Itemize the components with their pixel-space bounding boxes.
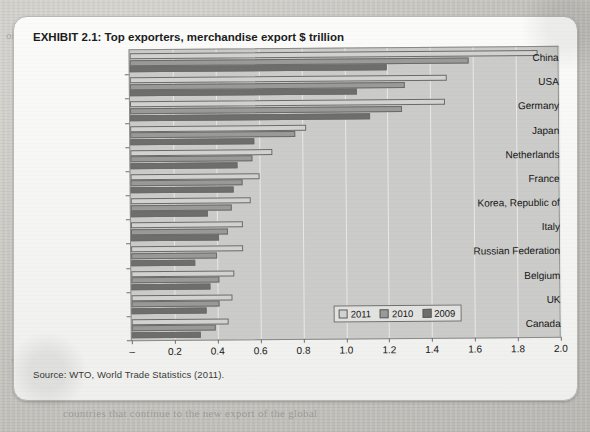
x-axis-tick-label: 1.8 <box>498 343 538 354</box>
y-axis-label: Belgium <box>464 269 560 281</box>
y-axis-tick <box>126 268 130 269</box>
y-axis-tick <box>125 74 129 75</box>
legend-item-2009[interactable]: 2009 <box>422 308 455 319</box>
bar-2009 <box>131 259 195 266</box>
x-axis-tick <box>389 338 390 342</box>
x-axis-tick-label: 0.2 <box>155 346 195 357</box>
y-axis-tick <box>126 195 130 196</box>
y-axis-label: China <box>463 52 559 64</box>
x-axis-tick-label: 0.8 <box>283 345 323 356</box>
bar-chart: ChinaUSAGermanyJapanNetherlandsFranceKor… <box>31 50 561 362</box>
exhibit-title-text: Top exporters, merchandise export $ tril… <box>105 31 344 43</box>
y-axis-tick <box>127 340 131 341</box>
x-axis-tick <box>303 339 304 343</box>
y-axis-label: France <box>464 173 560 185</box>
y-axis-label: Italy <box>464 221 560 233</box>
exhibit-title: EXHIBIT 2.1: Top exporters, merchandise … <box>33 31 344 43</box>
legend-label: 2010 <box>392 308 413 319</box>
y-axis-label: USA <box>463 76 559 88</box>
x-axis-tick-label: 1.0 <box>326 344 366 355</box>
bar-2009 <box>130 89 357 97</box>
y-axis-tick <box>126 292 130 293</box>
bar-2009 <box>132 332 201 339</box>
x-axis-tick <box>561 337 562 341</box>
bar-2009 <box>130 162 237 169</box>
bar-2010 <box>131 252 217 259</box>
y-axis-label: Netherlands <box>463 149 559 161</box>
x-axis-tick-label: 1.2 <box>369 344 409 355</box>
legend-swatch-icon <box>339 310 348 319</box>
bar-2009 <box>130 138 254 145</box>
bar-2010 <box>131 204 232 211</box>
x-axis-tick <box>218 340 219 344</box>
y-axis-tick <box>126 219 130 220</box>
x-axis-tick <box>175 340 176 344</box>
legend-swatch-icon <box>380 309 389 318</box>
y-axis-label: Canada <box>465 318 561 330</box>
bar-2009 <box>132 307 207 314</box>
x-axis-tick <box>518 337 519 341</box>
y-axis-tick <box>125 123 129 124</box>
bar-2009 <box>131 235 219 242</box>
x-axis-tick <box>475 338 476 342</box>
x-axis-tick <box>261 339 262 343</box>
chart-legend[interactable]: 201120102009 <box>334 305 462 323</box>
y-axis-tick <box>126 171 130 172</box>
bar-2009 <box>131 283 210 290</box>
legend-swatch-icon <box>422 309 431 318</box>
bar-2010 <box>131 277 219 284</box>
bar-2009 <box>130 64 387 72</box>
x-axis-tick <box>346 339 347 343</box>
y-axis-label: Germany <box>463 100 559 112</box>
x-axis-tick-label: 1.4 <box>412 344 452 355</box>
bar-2011 <box>131 197 251 204</box>
x-axis-tick <box>132 340 133 344</box>
y-axis-tick <box>125 147 129 148</box>
y-axis-tick <box>127 316 131 317</box>
legend-item-2011[interactable]: 2011 <box>339 308 372 319</box>
bar-2010 <box>132 301 220 308</box>
legend-label: 2009 <box>434 308 455 319</box>
exhibit-label: EXHIBIT 2.1: <box>33 31 101 43</box>
x-axis-tick-label: – <box>112 346 152 357</box>
x-axis-tick <box>432 338 433 342</box>
y-axis-label: Korea, Republic of <box>464 197 560 209</box>
legend-item-2010[interactable]: 2010 <box>380 308 413 319</box>
y-axis-tick <box>126 244 130 245</box>
x-axis-tick-label: 1.6 <box>455 343 495 354</box>
x-axis-tick-label: 0.6 <box>241 345 281 356</box>
legend-label: 2011 <box>351 308 372 319</box>
bar-2010 <box>132 325 216 332</box>
bar-2011 <box>131 246 243 253</box>
bar-2009 <box>131 186 234 193</box>
exhibit-card: EXHIBIT 2.1: Top exporters, merchandise … <box>13 16 578 401</box>
y-axis-label: Japan <box>463 124 559 136</box>
x-axis-tick-label: 2.0 <box>541 343 578 354</box>
y-axis-label: UK <box>464 294 560 306</box>
bar-2009 <box>131 211 208 218</box>
y-axis-label: Russian Federation <box>464 245 560 257</box>
source-note: Source: WTO, World Trade Statistics (201… <box>33 369 224 380</box>
bar-2009 <box>130 113 370 121</box>
x-axis-tick-label: 0.4 <box>198 345 238 356</box>
bar-2010 <box>130 131 295 138</box>
y-axis-tick <box>125 99 129 100</box>
